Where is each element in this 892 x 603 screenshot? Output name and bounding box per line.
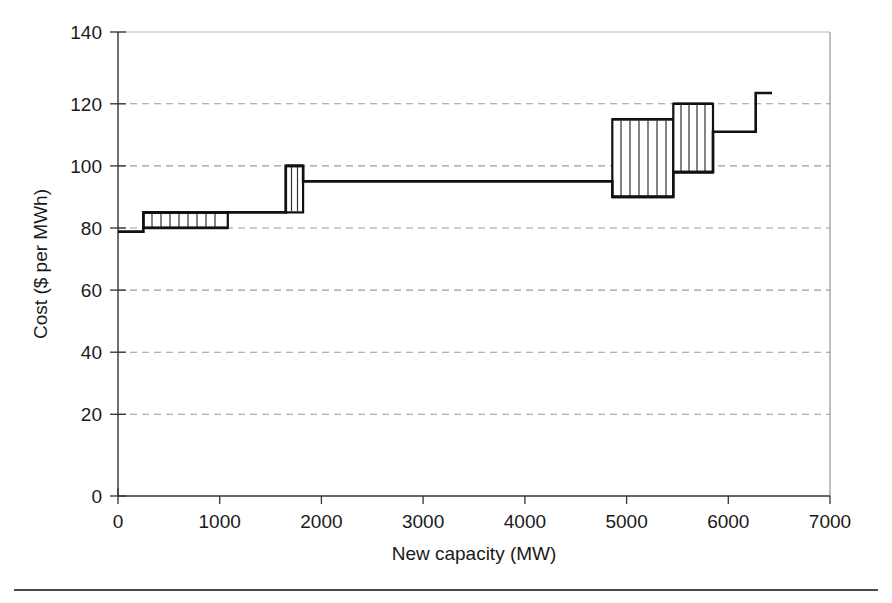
x-tick-label: 2000 bbox=[300, 511, 342, 532]
axis-lines bbox=[118, 32, 830, 496]
supply-curve-chart: 140 120 100 80 60 40 20 0 0 1000 2000 30… bbox=[0, 0, 892, 603]
y-tick-labels: 140 120 100 80 60 40 20 0 bbox=[70, 22, 102, 507]
capacity-block bbox=[286, 166, 303, 213]
y-tick-label: 0 bbox=[91, 486, 102, 507]
capacity-block bbox=[612, 119, 673, 197]
y-tick-label: 140 bbox=[70, 22, 102, 43]
x-axis-title: New capacity (MW) bbox=[392, 543, 557, 564]
y-tick-label: 60 bbox=[81, 280, 102, 301]
y-tick-label: 100 bbox=[70, 156, 102, 177]
y-gridlines bbox=[118, 104, 830, 415]
x-tick-label: 3000 bbox=[402, 511, 444, 532]
x-tick-labels: 0 1000 2000 3000 4000 5000 6000 7000 bbox=[113, 511, 851, 532]
x-tick-label: 0 bbox=[113, 511, 124, 532]
capacity-block bbox=[673, 104, 713, 172]
y-axis-title: Cost ($ per MWh) bbox=[30, 189, 51, 339]
y-tick-label: 20 bbox=[81, 404, 102, 425]
x-tick-label: 5000 bbox=[605, 511, 647, 532]
chart-figure: 140 120 100 80 60 40 20 0 0 1000 2000 30… bbox=[0, 0, 892, 603]
y-tick-label: 40 bbox=[81, 342, 102, 363]
y-tick-label: 80 bbox=[81, 218, 102, 239]
plot-frame bbox=[118, 32, 830, 496]
x-tick-label: 6000 bbox=[707, 511, 749, 532]
x-tick-label: 4000 bbox=[504, 511, 546, 532]
y-tick-label: 120 bbox=[70, 94, 102, 115]
capacity-block bbox=[143, 212, 227, 228]
x-tick-label: 1000 bbox=[199, 511, 241, 532]
x-tick-label: 7000 bbox=[809, 511, 851, 532]
